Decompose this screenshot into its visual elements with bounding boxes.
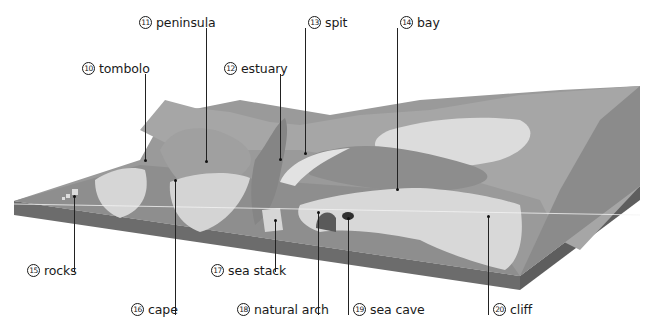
marker-cape — [174, 179, 177, 182]
number-badge: 16 — [131, 303, 144, 316]
marker-cliff — [487, 215, 490, 218]
leader-estuary — [280, 74, 281, 160]
label-bay: 14 bay — [400, 15, 440, 30]
marker-natural-arch — [317, 211, 320, 214]
marker-estuary — [279, 158, 282, 161]
marker-tombolo — [144, 159, 147, 162]
label-text: sea cave — [370, 302, 425, 317]
marker-bay — [396, 188, 399, 191]
block-diagram-illustration — [0, 0, 648, 328]
number-badge: 14 — [400, 16, 413, 29]
label-tombolo: 10 tombolo — [82, 61, 150, 76]
label-text: tombolo — [99, 61, 150, 76]
label-sea-cave: 19 sea cave — [353, 302, 425, 317]
leader-sea-cave — [348, 218, 349, 315]
label-rocks: 15 rocks — [27, 263, 77, 278]
label-cape: 16 cape — [131, 302, 178, 317]
number-badge: 15 — [27, 264, 40, 277]
leader-cliff — [488, 216, 489, 315]
number-badge: 13 — [308, 16, 321, 29]
number-badge: 10 — [82, 62, 95, 75]
number-badge: 17 — [211, 264, 224, 277]
leader-tombolo — [145, 74, 146, 160]
leader-rocks — [74, 196, 75, 272]
number-badge: 11 — [139, 16, 152, 29]
label-spit: 13 spit — [308, 15, 347, 30]
label-cliff: 20 cliff — [493, 302, 532, 317]
leader-cape — [175, 180, 176, 315]
marker-sea-stack — [274, 219, 277, 222]
number-badge: 12 — [224, 62, 237, 75]
leader-natural-arch — [318, 212, 319, 315]
marker-rocks — [73, 195, 76, 198]
leader-spit — [305, 28, 306, 154]
label-peninsula: 11 peninsula — [139, 15, 216, 30]
marker-spit — [304, 152, 307, 155]
label-sea-stack: 17 sea stack — [211, 263, 286, 278]
leader-peninsula — [206, 28, 207, 162]
label-text: peninsula — [156, 15, 216, 30]
label-text: cape — [148, 302, 178, 317]
number-badge: 19 — [353, 303, 366, 316]
marker-sea-cave — [347, 217, 350, 220]
label-text: cliff — [510, 302, 532, 317]
sea-stack — [262, 208, 283, 232]
marker-peninsula — [205, 160, 208, 163]
label-text: bay — [417, 15, 440, 30]
label-text: sea stack — [228, 263, 286, 278]
coastal-landforms-diagram: 10 tombolo 11 peninsula 12 estuary 13 sp… — [0, 0, 648, 328]
number-badge: 18 — [237, 303, 250, 316]
leader-bay — [397, 28, 398, 190]
label-estuary: 12 estuary — [224, 61, 288, 76]
label-natural-arch: 18 natural arch — [237, 302, 329, 317]
label-text: spit — [325, 15, 347, 30]
rock-3 — [62, 197, 65, 200]
label-text: natural arch — [254, 302, 329, 317]
number-badge: 20 — [493, 303, 506, 316]
rock-2 — [66, 194, 70, 198]
label-text: estuary — [241, 61, 288, 76]
label-text: rocks — [44, 263, 77, 278]
